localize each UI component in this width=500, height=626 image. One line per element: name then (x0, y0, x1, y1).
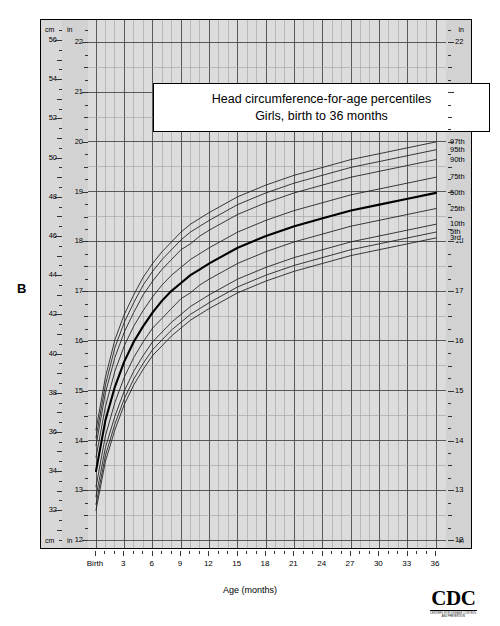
axis-tick (448, 154, 451, 155)
percentile-label-95th: 95th (449, 146, 466, 154)
axis-tick (55, 354, 62, 355)
growth-chart: cm cm in in in in 3234363840424446485052… (40, 19, 472, 549)
percentile-label-25th: 25th (449, 205, 466, 213)
axis-tick (59, 246, 62, 247)
axis-tick (85, 304, 88, 305)
axis-tick (84, 515, 88, 516)
axis-tick (55, 393, 62, 394)
axis-tick (448, 92, 454, 93)
axis-tick (82, 192, 88, 193)
axis-tick (85, 55, 88, 56)
axis-tick (448, 515, 452, 516)
axis-tick (59, 50, 62, 51)
x-axis-tick (435, 551, 436, 556)
axis-tick (448, 241, 454, 242)
axis-tick (448, 192, 454, 193)
x-axis-tick (350, 551, 351, 556)
x-tick-27: 27 (346, 560, 355, 568)
x-axis-tick (341, 551, 342, 554)
axis-tick (57, 530, 62, 531)
x-axis-tick (171, 551, 172, 554)
axis-tick (59, 461, 62, 462)
x-axis-tick (161, 551, 162, 554)
axis-tick (57, 138, 62, 139)
axis-tick (55, 197, 62, 198)
axis-tick (59, 540, 62, 541)
axis-tick (85, 229, 88, 230)
inch-unit-bottom-left: in (67, 537, 72, 544)
axis-tick (448, 291, 454, 292)
axis-tick (59, 167, 62, 168)
x-tick-36: 36 (431, 560, 440, 568)
chart-title-line2: Girls, birth to 36 months (255, 108, 388, 125)
axis-tick (85, 403, 88, 404)
x-tick-12: 12 (204, 560, 213, 568)
axis-tick (448, 266, 452, 267)
axis-tick (85, 329, 88, 330)
axis-tick (84, 465, 88, 466)
axis-tick (448, 142, 454, 143)
x-axis-tick (227, 551, 228, 554)
x-axis-tick (388, 551, 389, 554)
axis-tick (57, 334, 62, 335)
axis-tick (85, 30, 88, 31)
axis-tick (59, 148, 62, 149)
axis-tick (82, 241, 88, 242)
axis-tick (82, 391, 88, 392)
x-axis-tick (256, 551, 257, 554)
axis-tick (84, 67, 88, 68)
axis-tick (448, 478, 451, 479)
inch-axis-gutter-left (62, 20, 88, 548)
x-axis-tick (142, 551, 143, 554)
x-tick-3: 3 (121, 560, 125, 568)
axis-tick (59, 442, 62, 443)
axis-tick (448, 341, 454, 342)
chart-title-line1: Head circumference-for-age percentiles (212, 91, 432, 108)
axis-tick (59, 30, 62, 31)
axis-tick (55, 471, 62, 472)
inch-tick-right-14: 14 (455, 437, 463, 445)
axis-tick (85, 478, 88, 479)
axis-tick (448, 30, 451, 31)
x-axis-tick (246, 551, 247, 554)
axis-tick (448, 117, 452, 118)
axis-tick (448, 167, 452, 168)
x-axis-tick (397, 551, 398, 554)
axis-tick (55, 510, 62, 511)
x-axis-tick (359, 551, 360, 554)
x-axis-tick (426, 551, 427, 554)
axis-tick (57, 60, 62, 61)
axis-tick (448, 316, 452, 317)
axis-tick (84, 217, 88, 218)
inch-unit-top-right: in (459, 26, 464, 33)
axis-tick (57, 373, 62, 374)
axis-tick (82, 42, 88, 43)
x-axis-tick (303, 551, 304, 554)
axis-tick (57, 491, 62, 492)
axis-tick (448, 403, 451, 404)
axis-tick (85, 154, 88, 155)
axis-tick (59, 403, 62, 404)
axis-tick (448, 80, 451, 81)
axis-tick (57, 216, 62, 217)
axis-tick (448, 42, 454, 43)
x-axis-tick (104, 551, 105, 554)
axis-tick (448, 465, 452, 466)
axis-tick (85, 503, 88, 504)
axis-tick (84, 366, 88, 367)
axis-tick (85, 453, 88, 454)
inch-tick-right-12: 12 (455, 536, 463, 544)
axis-tick (59, 265, 62, 266)
cm-unit-top: cm (45, 26, 54, 33)
axis-tick (448, 366, 452, 367)
axis-tick (59, 422, 62, 423)
axis-tick (448, 304, 451, 305)
axis-tick (448, 528, 451, 529)
x-axis-tick (322, 551, 323, 556)
axis-tick (84, 416, 88, 417)
x-tick-6: 6 (149, 560, 153, 568)
x-axis-tick (199, 551, 200, 554)
axis-tick (448, 428, 451, 429)
axis-tick (82, 540, 88, 541)
percentile-label-90th: 90th (449, 156, 466, 164)
